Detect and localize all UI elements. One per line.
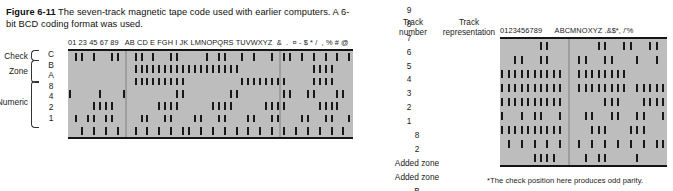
left-diagram-mark [75,115,77,123]
left-diagram-mark [336,53,338,61]
group-label-numeric: Numeric [0,97,28,107]
left-diagram-mark [170,53,172,61]
left-diagram-mark [313,53,315,61]
left-diagram-mark [307,115,309,123]
left-diagram-mark [188,127,190,135]
group-label-check: Check [0,51,28,61]
left-diagram-mark [176,53,178,61]
left-diagram-mark [212,127,214,135]
right-diagram-mark [617,140,619,149]
left-diagram-mark [105,102,107,110]
right-diagram-mark [604,56,606,65]
right-diagram-mark [546,126,548,135]
left-diagram-mark [271,53,273,61]
right-diagram-mark [611,98,613,107]
left-diagram-mark [123,90,125,98]
figure-caption-text: The seven-track magnetic tape code used … [6,7,349,29]
left-row-label-a: A [40,70,62,81]
left-diagram-mark [259,127,261,135]
left-diagram-mark [301,53,303,61]
right-diagram-mark [578,84,580,93]
right-diagram-mark [559,98,561,107]
right-diagram-mark [604,42,606,51]
left-diagram-mark [182,78,184,86]
left-diagram-mark [164,78,166,86]
left-diagram-mark [152,78,154,86]
left-diagram-mark [99,102,101,110]
right-diagram-mark [508,126,510,135]
left-diagram-mark [331,78,333,86]
right-diagram-mark [585,84,587,93]
right-diagram-mark [656,140,658,149]
right-diagram-mark [540,154,542,163]
left-diagram-mark [170,65,172,73]
right-diagram-mark [591,70,593,79]
left-diagram-mark [135,65,137,73]
right-diagram-mark [546,56,548,65]
right-diagram-mark [514,56,516,65]
right-diagram-mark [521,140,523,149]
right-diagram-mark [534,154,536,163]
left-diagram-mark [224,53,226,61]
right-diagram-mark [623,70,625,79]
left-diagram-mark [283,78,285,86]
right-diagram-mark [546,154,548,163]
right-diagram-mark [521,56,523,65]
left-diagram-mark [152,53,154,61]
right-diagram-mark [508,140,510,149]
left-diagram-mark [253,53,255,61]
left-diagram-mark [336,102,338,110]
left-diagram-mark [141,53,143,61]
track-number-cell: 6 [386,46,432,60]
left-row-label-c: C [40,49,62,60]
right-diagram-mark [611,70,613,79]
right-diagram-mark [540,84,542,93]
right-diagram-mark [611,56,613,65]
right-diagram-mark [540,56,542,65]
left-diagram-mark [271,115,273,123]
left-diagram-mark [241,53,243,61]
left-diagram-mark [105,115,107,123]
left-diagram-mark [111,53,113,61]
figure-number: Figure 6-11 [6,7,56,17]
track-number-cell: 4 [386,73,432,87]
right-diagram-mark [540,126,542,135]
right-diagram-mark [546,84,548,93]
left-diagram-mark [277,78,279,86]
left-row-label-b: B [40,60,62,71]
left-diagram-mark [182,65,184,73]
left-row-label-4: 4 [40,91,62,102]
right-diagram-mark [534,126,536,135]
left-diagram-mark [325,78,327,86]
left-diagram-mark [212,102,214,110]
left-diagram-mark [141,65,143,73]
right-diagram-mark [527,126,529,135]
left-diagram-mark [111,102,113,110]
right-diagram-mark [508,98,510,107]
left-diagram-mark [182,90,184,98]
left-diagram-mark [146,127,148,135]
left-diagram-mark [283,53,285,61]
right-diagram-mark [585,70,587,79]
left-diagram-mark [277,115,279,123]
left-diagram-mark [117,53,119,61]
right-diagram-mark [643,84,645,93]
right-diagram-mark [508,70,510,79]
left-diagram-mark [331,102,333,110]
left-diagram-mark [313,78,315,86]
right-diagram-mark [585,56,587,65]
left-diagram-character-header: 01 23 45 67 89 AB CD E FGH I JK LMNOPQRS… [68,38,349,49]
left-diagram-mark [319,127,321,135]
right-diagram-mark [514,70,516,79]
right-diagram-mark [636,56,638,65]
left-diagram-mark [93,53,95,61]
right-diagram-mark [578,56,580,65]
zone-brace [31,60,39,83]
left-row-label-8: 8 [40,81,62,92]
left-diagram-mark [313,90,315,98]
right-diagram-mark [534,70,536,79]
right-diagram-mark [662,112,664,121]
right-diagram-mark [636,112,638,121]
left-diagram-mark [158,102,160,110]
right-diagram-mark [617,84,619,93]
